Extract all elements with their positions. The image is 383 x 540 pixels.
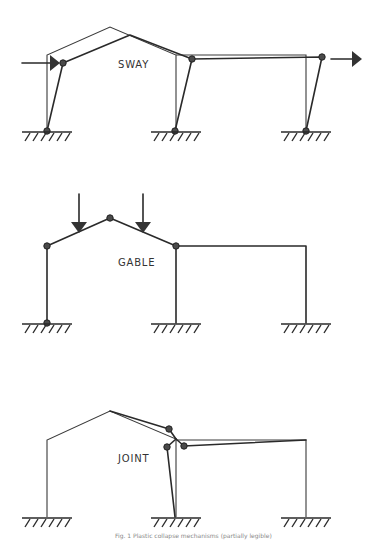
fixed-support-icon [281, 324, 331, 333]
gable-frame [47, 218, 306, 323]
sway-label: SWAY [118, 59, 149, 70]
plastic-hinge-icon [166, 426, 172, 432]
gable-label: GABLE [118, 257, 155, 268]
vertical-load-arrow-left [71, 194, 87, 233]
plastic-hinge-icon [164, 444, 170, 450]
plastic-hinge-icon [44, 243, 50, 249]
figure-caption: Fig. 1 Plastic collapse mechanisms (part… [115, 532, 272, 540]
plastic-hinge-icon [181, 443, 187, 449]
fixed-support-icon [151, 518, 201, 527]
frame-mechanisms-diagram: SWAY GABLE [0, 0, 383, 540]
sway-panel: SWAY [22, 27, 362, 141]
joint-panel: JOINT [22, 411, 331, 527]
fixed-support-icon [281, 518, 331, 527]
joint-original-frame [47, 411, 306, 517]
vertical-load-arrow-right [135, 194, 151, 233]
plastic-hinge-icon [319, 54, 325, 60]
plastic-hinge-icon [173, 243, 179, 249]
gable-panel: GABLE [22, 194, 331, 333]
plastic-hinge-icon [44, 320, 50, 326]
fixed-support-icon [151, 324, 201, 333]
joint-label: JOINT [117, 453, 149, 464]
fixed-support-icon [22, 518, 72, 527]
horizontal-load-arrow-left [22, 55, 60, 71]
horizontal-load-arrow-right [331, 51, 362, 67]
joint-displaced-members [110, 411, 306, 517]
plastic-hinge-icon [60, 60, 66, 66]
plastic-hinge-icon [189, 56, 195, 62]
plastic-hinge-icon [44, 128, 50, 134]
sway-displaced-frame [47, 35, 322, 131]
plastic-hinge-icon [107, 215, 113, 221]
sway-original-frame [47, 27, 306, 131]
plastic-hinge-icon [303, 128, 309, 134]
